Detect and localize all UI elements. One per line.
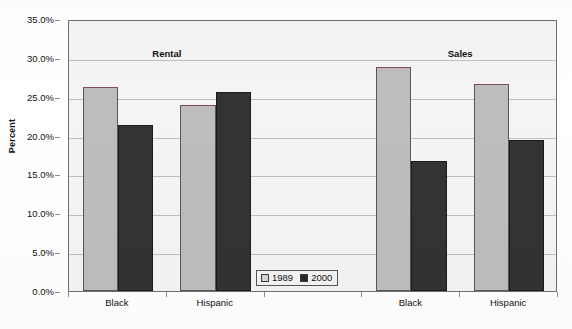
bar-2000-Hispanic-1 (216, 92, 251, 291)
y-axis-tick-label: 20.0% (27, 132, 54, 142)
y-axis-tick-label: 5.0% (32, 248, 54, 258)
y-axis-tick-label: 25.0% (27, 93, 54, 103)
bar-top-highlight (377, 67, 410, 68)
legend-label: 2000 (311, 273, 332, 283)
bar-1989-Black-0 (83, 87, 118, 291)
bar-1989-Black-3 (376, 67, 411, 291)
bar-2000-Black-3 (411, 161, 446, 291)
y-axis-tick-label: 30.0% (27, 54, 54, 64)
section-label-rental: Rental (152, 48, 181, 59)
y-axis-tick-mark (55, 20, 60, 21)
y-axis-tick-mark (55, 253, 60, 254)
chart-legend: 19892000 (256, 270, 338, 286)
bar-1989-Hispanic-4 (474, 84, 509, 291)
bar-top-highlight (84, 87, 117, 88)
y-axis-tick-mark (55, 98, 60, 99)
section-label-sales: Sales (448, 48, 473, 59)
legend-label: 1989 (272, 273, 293, 283)
x-axis-tick-labels: BlackHispanicBlackHispanic (68, 297, 557, 317)
x-axis-tick-mark (264, 292, 265, 297)
x-axis-label-black-0: Black (105, 297, 128, 308)
bar-chart: Percent 0.0%5.0%10.0%15.0%20.0%25.0%30.0… (0, 0, 572, 329)
x-axis-tick-mark (68, 292, 69, 297)
bar-2000-Black-0 (118, 125, 153, 291)
y-axis-tick-mark (55, 214, 60, 215)
bar-top-highlight (181, 105, 214, 106)
x-axis-tick-mark (459, 292, 460, 297)
legend-entry-2000: 2000 (300, 273, 332, 283)
y-axis-tick-label: 15.0% (27, 170, 54, 180)
y-axis-tick-mark (55, 137, 60, 138)
bar-top-highlight (475, 84, 508, 85)
x-axis-label-hispanic-1: Hispanic (196, 297, 232, 308)
gridline (69, 60, 556, 61)
y-axis-tick-mark (55, 175, 60, 176)
x-axis-tick-mark (166, 292, 167, 297)
x-axis-label-hispanic-4: Hispanic (490, 297, 526, 308)
y-axis-tick-labels: 0.0%5.0%10.0%15.0%20.0%25.0%30.0%35.0% (8, 0, 60, 329)
legend-swatch-2000 (300, 274, 308, 282)
bar-1989-Hispanic-1 (180, 105, 215, 291)
x-axis-label-black-3: Black (399, 297, 422, 308)
y-axis-tick-label: 10.0% (27, 209, 54, 219)
y-axis-tick-label: 0.0% (32, 287, 54, 297)
y-axis-tick-mark (55, 292, 60, 293)
legend-swatch-1989 (261, 274, 269, 282)
plot-inner: RentalSales (69, 21, 556, 291)
x-axis-tick-mark (557, 292, 558, 297)
x-axis-tick-mark (361, 292, 362, 297)
y-axis-tick-mark (55, 59, 60, 60)
y-axis-tick-label: 35.0% (27, 15, 54, 25)
bar-2000-Hispanic-4 (509, 140, 544, 291)
plot-area: RentalSales (68, 20, 557, 292)
legend-entry-1989: 1989 (261, 273, 293, 283)
